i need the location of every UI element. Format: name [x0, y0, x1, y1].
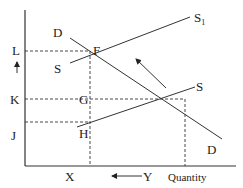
demand-label: D	[53, 25, 62, 40]
price-label-L: L	[12, 43, 20, 58]
supply-label-left: S	[54, 61, 61, 76]
x-axis-title: Quantity	[168, 171, 207, 183]
quantity-label-Y: Y	[143, 169, 153, 184]
price-label-J: J	[11, 128, 16, 143]
point-F: F	[93, 43, 100, 58]
supply-shifted-label: S1	[194, 10, 205, 27]
supply-label-right: S	[196, 79, 203, 94]
supply-curve-s1	[70, 17, 190, 63]
price-label-K: K	[10, 92, 20, 107]
supply-demand-diagram: L K J X Y Quantity D S S1 S D F G H	[0, 0, 243, 188]
demand-label-end: D	[207, 142, 216, 157]
point-G: G	[79, 92, 88, 107]
supply-shift-arrow	[136, 59, 166, 88]
supply-curve-s	[77, 87, 195, 127]
quantity-label-X: X	[65, 169, 75, 184]
point-H: H	[79, 126, 88, 141]
